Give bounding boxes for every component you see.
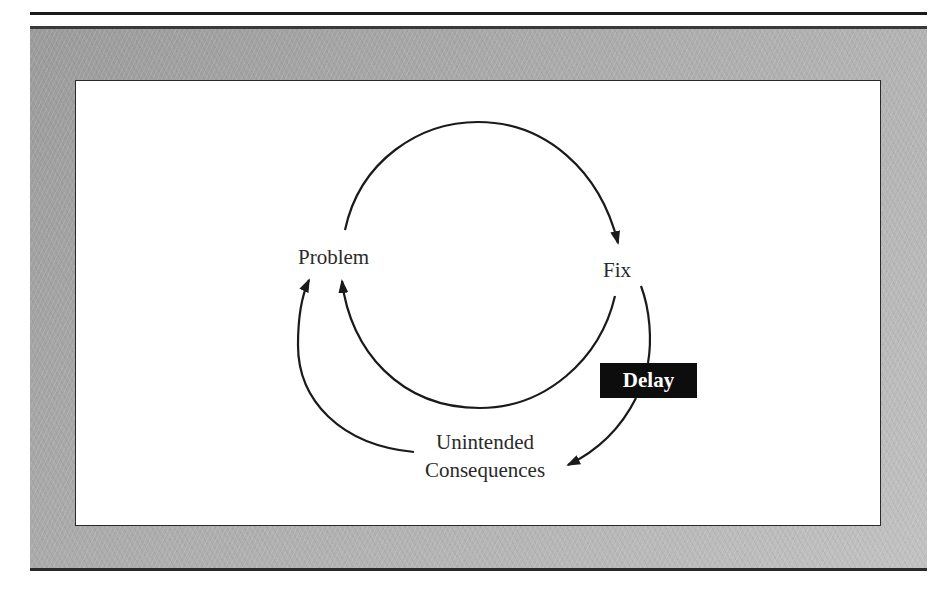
arrow-fix-to-problem bbox=[342, 281, 615, 408]
arrow-delay-to-consequences bbox=[568, 398, 636, 465]
node-problem: Problem bbox=[298, 247, 369, 268]
node-fix: Fix bbox=[603, 260, 631, 281]
arrow-problem-to-fix bbox=[345, 122, 618, 243]
node-unintended-consequences: Unintended Consequences bbox=[405, 428, 565, 484]
causal-loop-diagram bbox=[0, 0, 945, 595]
node-unintended-line2: Consequences bbox=[405, 456, 565, 484]
delay-box: Delay bbox=[600, 363, 697, 398]
arrow-fix-to-delay bbox=[641, 286, 650, 363]
delay-label: Delay bbox=[623, 368, 674, 393]
arrow-consequences-to-problem bbox=[298, 280, 414, 452]
node-unintended-line1: Unintended bbox=[405, 428, 565, 456]
